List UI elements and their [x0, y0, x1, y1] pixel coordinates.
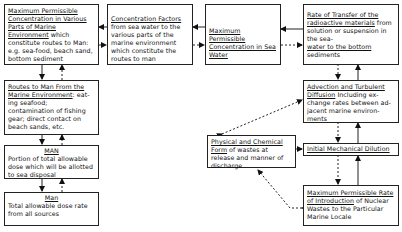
edge-maxrate-to-physchem: [258, 170, 302, 208]
node-body: Total allowable dose rate from all sourc…: [8, 202, 88, 217]
node-man-portion: MAN Portion of total allowable dose whic…: [4, 145, 99, 179]
node-man-total: Man Total allowable dose rate from all s…: [4, 192, 99, 226]
node-title: Maximum Permissible Concentration in Sea…: [209, 27, 276, 58]
node-advection-diffusion: Advection and Turbulent Diffusion Includ…: [303, 80, 399, 123]
node-max-rate-introduction: Maximum Permissible Rate of Introduction…: [303, 185, 399, 226]
node-title: Rate of Transfer of the radioactive mate…: [307, 11, 378, 26]
node-physical-chemical-form: Physical and Chemical Form of wastes at …: [207, 135, 296, 168]
node-body: Portion of total allowable dose which wi…: [8, 155, 93, 178]
edge-physchem-to-advection: [222, 100, 302, 134]
node-routes-to-man: Routes to Man From the Marine Environmen…: [4, 80, 99, 135]
node-body: sediments: [307, 51, 340, 58]
node-title: Maximum Permissible Concentration in Var…: [8, 7, 87, 38]
node-body: from sea water to the various parts of t…: [111, 23, 180, 62]
node-max-conc-marine-parts: Maximum Permissible Concentration in Var…: [4, 4, 99, 65]
node-title: Concentration Factors: [111, 15, 181, 22]
node-initial-dilution: Initial Mechanical Dilution: [303, 143, 399, 156]
node-title: Man: [8, 194, 95, 202]
node-concentration-factors: Concentration Factors from sea water to …: [107, 4, 193, 65]
node-rate-of-transfer: Rate of Transfer of the radioactive mate…: [303, 4, 399, 65]
node-title: MAN: [8, 147, 95, 155]
node-title-2: water to the bottom: [307, 43, 371, 50]
node-max-conc-sea-water: Maximum Permissible Concentration in Sea…: [205, 4, 281, 65]
node-title: Initial Mechanical Dilution: [307, 145, 390, 152]
